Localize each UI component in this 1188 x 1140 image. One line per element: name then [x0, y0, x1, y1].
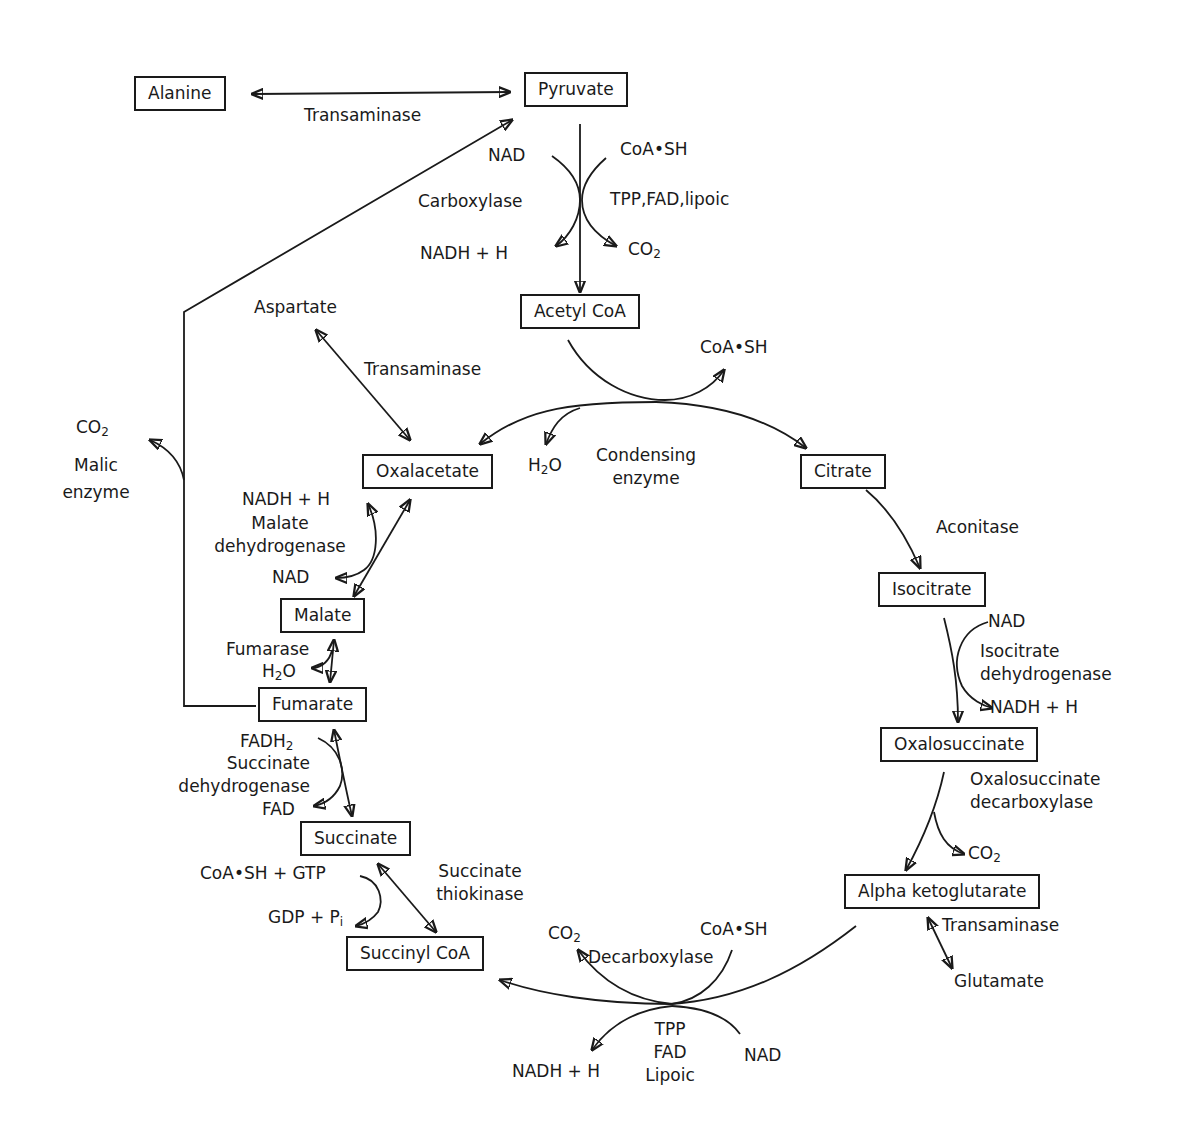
label-oxalosuccinate-decarboxylase: Oxalosuccinatedecarboxylase [970, 768, 1100, 814]
label-malic-enzyme: Malicenzyme [54, 452, 138, 506]
label-succinate-thiokinase: Succinatethiokinase [430, 860, 530, 906]
label-akgdh-nadh: NADH + H [512, 1060, 600, 1083]
compound-acetyl-coa: Acetyl CoA [520, 294, 640, 329]
label-idh-nad: NAD [988, 610, 1025, 633]
label-cs-h2o: H2O [528, 454, 562, 478]
label-glutamate: Glutamate [954, 970, 1044, 993]
label-pdh-enzyme: Carboxylase [418, 190, 523, 213]
compound-alanine: Alanine [134, 76, 226, 111]
label-aspartate: Aspartate [254, 296, 337, 319]
label-mdh-nad: NAD [272, 566, 309, 589]
label-akgdh-decarboxylase: Decarboxylase [588, 946, 714, 969]
compound-pyruvate: Pyruvate [524, 72, 628, 107]
label-fumarase-h2o: H2O [262, 660, 296, 684]
compound-oxalacetate: Oxalacetate [362, 454, 493, 489]
label-stk-coash-gtp: CoA•SH + GTP [200, 862, 326, 885]
label-isocitrate-dehydrogenase: Isocitratedehydrogenase [980, 640, 1112, 686]
pathway-arrows [0, 0, 1188, 1140]
compound-citrate: Citrate [800, 454, 886, 489]
label-transaminase-akg: Transaminase [942, 914, 1059, 937]
label-stk-gdp-pi: GDP + Pi [268, 906, 343, 930]
compound-succinate: Succinate [300, 821, 411, 856]
label-sdh-fad: FAD [262, 798, 295, 821]
compound-succinyl-coa: Succinyl CoA [346, 936, 484, 971]
label-pdh-nadh: NADH + H [420, 242, 508, 265]
label-akgdh-cofactors: TPPFADLipoic [640, 1018, 700, 1087]
citric-acid-cycle-diagram: Alanine Pyruvate Acetyl CoA Oxalacetate … [0, 0, 1188, 1140]
compound-oxalosuccinate: Oxalosuccinate [880, 727, 1038, 762]
label-malate-dehydrogenase: Malatedehydrogenase [200, 512, 360, 558]
compound-alpha-ketoglutarate: Alpha ketoglutarate [844, 874, 1040, 909]
label-pdh-coash: CoA•SH [620, 138, 688, 161]
label-condensing-enzyme: Condensingenzyme [586, 444, 706, 490]
label-mdh-nadh: NADH + H [242, 488, 330, 511]
label-transaminase-alanine: Transaminase [304, 104, 421, 127]
label-cs-coash: CoA•SH [700, 336, 768, 359]
label-transaminase-aspartate: Transaminase [364, 358, 481, 381]
label-idh-nadh: NADH + H [990, 696, 1078, 719]
label-succinate-dehydrogenase: Succinatedehydrogenase [150, 752, 310, 798]
label-osd-co2: CO2 [968, 842, 1001, 866]
label-akgdh-nad: NAD [744, 1044, 781, 1067]
label-fumarase: Fumarase [226, 638, 309, 661]
label-pdh-cofactors: TPP,FAD,lipoic [610, 188, 729, 211]
label-pdh-co2: CO2 [628, 238, 661, 262]
label-akgdh-co2: CO2 [548, 922, 581, 946]
compound-isocitrate: Isocitrate [878, 572, 986, 607]
compound-malate: Malate [280, 598, 365, 633]
label-sdh-fadh2: FADH2 [240, 730, 293, 754]
label-pdh-nad: NAD [488, 144, 525, 167]
label-aconitase: Aconitase [936, 516, 1019, 539]
compound-fumarate: Fumarate [258, 687, 367, 722]
label-malic-co2: CO2 [76, 416, 109, 440]
label-akgdh-coash: CoA•SH [700, 918, 768, 941]
